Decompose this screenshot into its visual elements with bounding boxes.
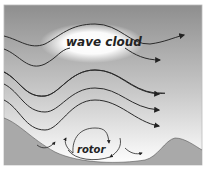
- wave-cloud-label: wave cloud: [66, 35, 142, 49]
- rotor-label: rotor: [77, 144, 105, 155]
